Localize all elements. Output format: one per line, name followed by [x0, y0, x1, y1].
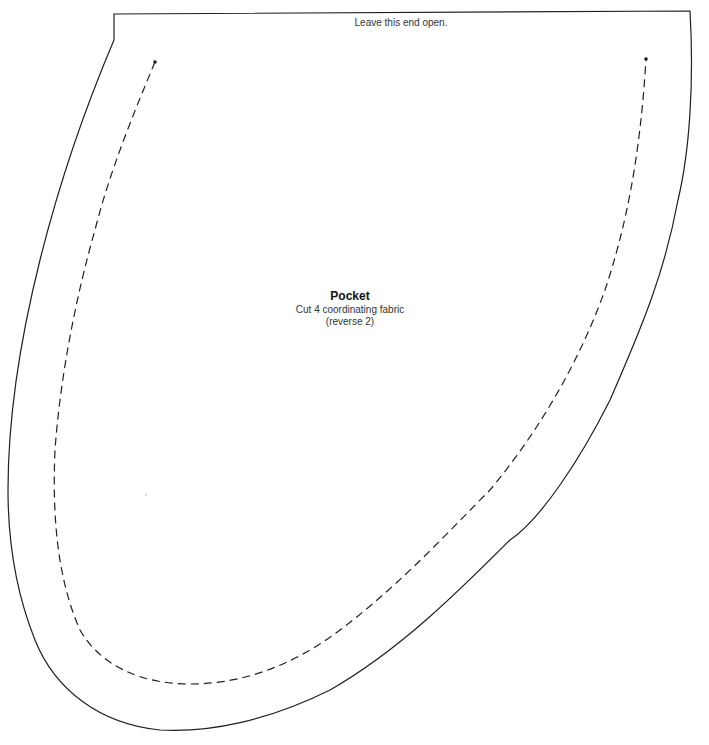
cut-instruction: Cut 4 coordinating fabric — [240, 304, 460, 315]
pocket-pattern-diagram — [0, 0, 709, 745]
open-end-note: Leave this end open. — [301, 17, 501, 28]
piece-title: Pocket — [260, 289, 440, 303]
reverse-note: (reverse 2) — [240, 316, 460, 327]
stitch-end-dot — [644, 57, 648, 61]
stitch-start-dot — [153, 60, 157, 64]
stitch-line-dashed — [54, 59, 646, 684]
stray-mark — [145, 494, 146, 495]
